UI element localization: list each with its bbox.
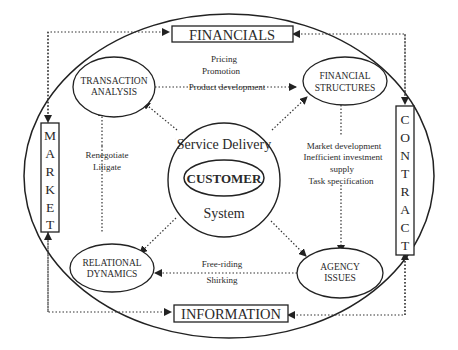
node-transaction-analysis: TRANSACTION ANALYSIS [73,57,155,117]
svg-text:TRANSACTION: TRANSACTION [80,76,147,86]
svg-text:Inefficient investment: Inefficient investment [303,152,383,162]
svg-text:DYNAMICS: DYNAMICS [87,269,138,279]
svg-text:O: O [400,130,410,145]
svg-text:Shirking: Shirking [206,275,238,285]
svg-text:T: T [401,166,410,181]
svg-text:ISSUES: ISSUES [324,273,356,283]
svg-text:STRUCTURES: STRUCTURES [315,83,376,93]
svg-text:A: A [400,202,410,217]
svg-text:E: E [46,200,54,215]
information-box: INFORMATION [174,305,288,322]
market-box: M A R K E T [41,123,59,232]
svg-text:AGENCY: AGENCY [320,262,360,272]
svg-text:N: N [400,148,410,163]
customer-service-delivery-diagram: FINANCIALS INFORMATION M A R K E T C O N… [0,0,458,350]
svg-text:T: T [401,238,410,253]
edge-labels-right: Market development Inefficient investmen… [303,141,383,186]
svg-text:T: T [46,217,55,232]
svg-text:Renegotiate: Renegotiate [86,150,129,160]
node-agency-issues: AGENCY ISSUES [297,248,383,298]
node-financial-structures: FINANCIAL STRUCTURES [303,57,387,105]
svg-text:FINANCIAL: FINANCIAL [319,71,370,81]
svg-text:R: R [400,184,409,199]
svg-text:K: K [45,182,55,197]
svg-text:Product development: Product development [189,82,266,92]
svg-text:RELATIONAL: RELATIONAL [82,258,141,268]
svg-text:FINANCIALS: FINANCIALS [189,27,275,43]
svg-text:Promotion: Promotion [202,66,241,76]
svg-text:INFORMATION: INFORMATION [181,306,281,322]
svg-text:C: C [400,220,409,235]
svg-text:R: R [45,164,54,179]
svg-text:Market development: Market development [307,141,382,151]
edge-labels-bottom: Free-riding Shirking [202,259,243,285]
financials-box: FINANCIALS [172,26,293,43]
svg-text:supply: supply [330,164,355,174]
svg-text:System: System [203,206,244,221]
svg-text:Litigate: Litigate [93,162,121,172]
edge-labels-top: Pricing Promotion Product development [189,54,266,92]
svg-text:C: C [400,112,409,127]
svg-text:Service Delivery: Service Delivery [177,137,271,152]
svg-text:ANALYSIS: ANALYSIS [91,87,137,97]
svg-text:M: M [44,128,56,143]
svg-text:CUSTOMER: CUSTOMER [187,171,262,186]
contract-box: C O N T R A C T [396,106,414,255]
node-relational-dynamics: RELATIONAL DYNAMICS [70,244,154,292]
svg-text:Free-riding: Free-riding [202,259,243,269]
svg-text:Pricing: Pricing [211,54,237,64]
center-service-delivery-system: Service Delivery CUSTOMER System [168,123,280,237]
svg-text:Task specification: Task specification [308,176,374,186]
svg-text:A: A [45,146,55,161]
